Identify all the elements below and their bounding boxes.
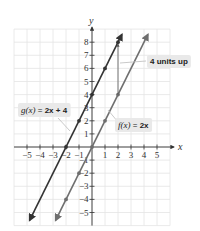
y-tick-label: 5 — [84, 77, 89, 87]
g-point — [77, 119, 81, 123]
f-label-func: f(x) — [118, 120, 131, 130]
f-point — [90, 145, 94, 149]
x-tick-label: 4 — [142, 150, 147, 160]
x-tick-label: 2 — [116, 150, 121, 160]
x-tick-label: 1 — [103, 150, 108, 160]
y-tick-label: 1 — [84, 129, 89, 139]
g-label-leader — [58, 118, 70, 131]
x-tick-label: 5 — [155, 150, 160, 160]
g-label-expr: 2x + 4 — [45, 106, 68, 115]
f-label-eq: = — [131, 121, 140, 130]
g-line — [30, 34, 122, 220]
x-axis-label: x — [177, 141, 183, 152]
g-point — [103, 67, 107, 71]
f-point — [64, 198, 68, 202]
g-label-func: g(x) — [21, 105, 36, 115]
y-tick-label: −3 — [79, 181, 89, 191]
shift-label: 4 units up — [150, 57, 188, 66]
y-tick-label: 2 — [84, 116, 89, 126]
g-label-eq: = — [36, 106, 45, 115]
g-label: g(x) = 2x + 4 — [21, 105, 68, 115]
g-point — [64, 145, 68, 149]
y-tick-label: −5 — [79, 208, 89, 218]
y-tick-label: 6 — [84, 63, 89, 73]
g-point — [116, 40, 120, 44]
x-tick-label: −4 — [35, 150, 45, 160]
x-tick-label: −5 — [22, 150, 32, 160]
f-point — [77, 171, 81, 175]
function-graph: xy −5−4−3−2−112345−5−4−3−2−112345678 g(x… — [0, 0, 200, 231]
f-point — [103, 119, 107, 123]
y-tick-label: 4 — [84, 90, 89, 100]
axes: xy — [14, 15, 183, 226]
x-tick-label: 3 — [129, 150, 134, 160]
f-label: f(x) = 2x — [118, 120, 149, 130]
y-tick-label: −4 — [79, 194, 89, 204]
g-point — [90, 93, 94, 97]
f-label-expr: 2x — [140, 121, 149, 130]
y-tick-label: 7 — [84, 50, 89, 60]
x-tick-label: −3 — [48, 150, 58, 160]
y-tick-label: 8 — [84, 37, 89, 47]
y-axis-label: y — [88, 15, 94, 26]
g-label-callout: g(x) = 2x + 4 — [18, 103, 71, 131]
